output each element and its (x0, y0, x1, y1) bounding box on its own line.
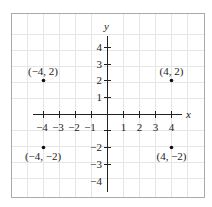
svg-text:−3: −3 (52, 121, 64, 133)
x-axis-label: x (185, 108, 191, 120)
svg-text:−4: −4 (36, 121, 48, 133)
point-neg4-2 (42, 79, 46, 83)
svg-text:−1: −1 (84, 121, 96, 133)
svg-text:2: 2 (137, 121, 143, 133)
svg-text:2: 2 (97, 74, 103, 86)
coordinate-plane: y x −4 −3 −2 −1 1 2 3 4 4 3 2 1 −2 −3 −4… (0, 0, 212, 207)
svg-text:3: 3 (97, 58, 103, 70)
label-p2: (4, 2) (160, 65, 184, 78)
y-axis-label: y (103, 20, 109, 32)
label-p4: (4, −2) (156, 150, 186, 163)
label-p3: (−4, −2) (25, 150, 62, 163)
svg-text:4: 4 (97, 41, 103, 53)
point-neg4-neg2 (42, 146, 46, 150)
svg-text:−2: −2 (90, 141, 102, 153)
svg-text:1: 1 (121, 121, 127, 133)
svg-text:1: 1 (97, 91, 103, 103)
point-4-neg2 (170, 146, 174, 150)
svg-text:3: 3 (153, 121, 159, 133)
svg-text:−2: −2 (68, 121, 80, 133)
svg-text:4: 4 (169, 121, 175, 133)
label-p1: (−4, 2) (28, 65, 58, 78)
svg-text:−4: −4 (90, 175, 102, 187)
svg-text:−3: −3 (90, 158, 102, 170)
point-4-2 (170, 79, 174, 83)
